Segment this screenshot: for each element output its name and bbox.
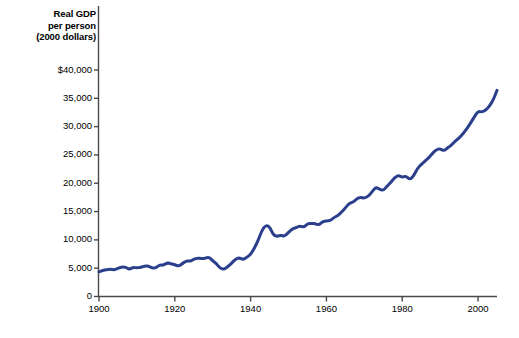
plot-area — [0, 0, 519, 338]
real-gdp-per-person-chart: Real GDP per person (2000 dollars) 05,00… — [0, 0, 519, 338]
axis-lines — [98, 6, 497, 297]
x-axis-ticks — [99, 297, 478, 302]
gdp-line-series — [99, 90, 497, 271]
